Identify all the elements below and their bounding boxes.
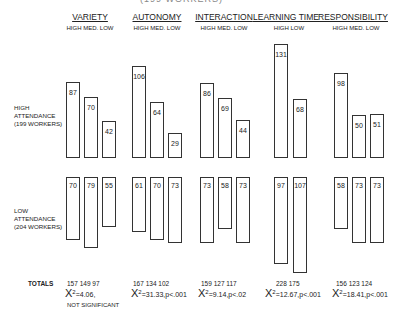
bar-low-responsibility-med: 73	[352, 177, 366, 243]
group-title-interaction: INTERACTION	[195, 12, 253, 22]
bar-value-label: 69	[219, 105, 231, 112]
bar-value-label: 98	[335, 80, 347, 87]
bar-value-label: 79	[85, 182, 97, 189]
bar-value-label: 64	[151, 109, 163, 116]
bar-value-label: 73	[371, 182, 383, 189]
row-label-line: ATTENDANCE	[14, 215, 62, 223]
bar-high-variety-med: 70	[84, 97, 98, 158]
totals-label: TOTALS	[28, 280, 53, 287]
chi-square-variety: X2=4.06,	[65, 287, 95, 299]
group-levels-learning-time: HIGH LOW	[274, 25, 304, 31]
totals-responsibility: 156 123 124	[336, 280, 372, 287]
totals-variety: 157 149 97	[67, 280, 100, 287]
bar-value-label: 51	[371, 121, 383, 128]
bar-high-interaction-med: 69	[218, 98, 232, 158]
group-title-learning-time: LEARNING TIME	[253, 12, 319, 22]
chi-value: =31.33,p<.001	[142, 291, 187, 298]
bar-value-label: 55	[103, 182, 115, 189]
bar-value-label: 73	[353, 182, 365, 189]
bar-value-label: 29	[169, 140, 181, 147]
chi-square-autonomy: X2=31.33,p<.001	[131, 287, 187, 299]
bar-value-label: 61	[133, 182, 145, 189]
bar-low-learning-time-low: 107	[293, 177, 307, 273]
row-label-high-attendance: HIGH ATTENDANCE (199 WORKERS)	[14, 104, 62, 128]
bar-low-autonomy-low: 73	[168, 177, 182, 243]
bar-high-variety-high: 87	[66, 82, 80, 158]
row-label-line: (204 WORKERS)	[14, 223, 62, 231]
bar-low-learning-time-high: 97	[274, 177, 288, 264]
bar-value-label: 73	[237, 182, 249, 189]
chi-value: =9.14,p<.02	[209, 291, 246, 298]
bar-low-responsibility-low: 73	[370, 177, 384, 243]
significance-note-variety: NOT SIGNIFICANT	[67, 302, 119, 308]
bar-low-interaction-low: 73	[236, 177, 250, 243]
bar-high-learning-time-low: 68	[293, 99, 307, 158]
group-title-autonomy: AUTONOMY	[133, 12, 182, 22]
bar-high-interaction-low: 44	[236, 120, 250, 158]
bar-value-label: 107	[294, 182, 306, 189]
chi-square-interaction: X2=9.14,p<.02	[198, 287, 246, 299]
group-title-variety: VARIETY	[72, 12, 108, 22]
chi-value: =4.06,	[76, 291, 96, 298]
bar-value-label: 97	[275, 182, 287, 189]
bar-value-label: 70	[67, 182, 79, 189]
bar-high-autonomy-high: 106	[132, 66, 146, 158]
bar-low-variety-low: 55	[102, 177, 116, 227]
bar-low-interaction-med: 58	[218, 177, 232, 229]
row-label-line: ATTENDANCE	[14, 112, 62, 120]
bar-value-label: 87	[67, 89, 79, 96]
group-levels-responsibility: HIGH MED. LOW	[332, 25, 379, 31]
bar-high-interaction-high: 86	[200, 83, 214, 158]
group-title-responsibility: RESPONSIBILITY	[318, 12, 388, 22]
bar-value-label: 42	[103, 128, 115, 135]
chi-value: =18.41,p<.001	[343, 291, 388, 298]
bar-low-interaction-high: 73	[200, 177, 214, 243]
chi-square-responsibility: X2=18.41,p<.001	[332, 287, 388, 299]
totals-interaction: 159 127 117	[201, 280, 237, 287]
bar-high-variety-low: 42	[102, 121, 116, 158]
bar-value-label: 106	[133, 73, 145, 80]
bar-low-responsibility-high: 58	[334, 177, 348, 229]
bar-high-learning-time-high: 131	[274, 44, 288, 158]
bar-value-label: 44	[237, 127, 249, 134]
bar-value-label: 58	[335, 182, 347, 189]
bar-value-label: 73	[169, 182, 181, 189]
group-levels-interaction: HIGH MED. LOW	[200, 25, 247, 31]
bar-high-autonomy-low: 29	[168, 133, 182, 158]
bar-value-label: 131	[275, 51, 287, 58]
bar-value-label: 58	[219, 182, 231, 189]
bar-low-variety-high: 70	[66, 177, 80, 240]
chi-square-learning-time: X2=12.67,p<.001	[265, 287, 321, 299]
group-levels-autonomy: HIGH MED. LOW	[133, 25, 180, 31]
totals-learning-time: 228 175	[276, 280, 300, 287]
bar-value-label: 86	[201, 90, 213, 97]
row-label-line: HIGH	[14, 104, 62, 112]
bar-low-autonomy-high: 61	[132, 177, 146, 232]
row-label-low-attendance: LOW ATTENDANCE (204 WORKERS)	[14, 207, 62, 231]
chart-title-fragment: (199 WORKERS)	[140, 0, 223, 4]
bar-value-label: 70	[85, 104, 97, 111]
bar-value-label: 73	[201, 182, 213, 189]
bar-low-variety-med: 79	[84, 177, 98, 248]
row-label-line: LOW	[14, 207, 62, 215]
bar-value-label: 50	[353, 122, 365, 129]
bar-high-responsibility-high: 98	[334, 73, 348, 158]
group-levels-variety: HIGH MED. LOW	[66, 25, 113, 31]
bar-high-autonomy-med: 64	[150, 102, 164, 158]
totals-autonomy: 167 134 102	[133, 280, 169, 287]
bar-value-label: 68	[294, 106, 306, 113]
chi-value: =12.67,p<.001	[276, 291, 321, 298]
bar-high-responsibility-low: 51	[370, 114, 384, 158]
bar-high-responsibility-med: 50	[352, 115, 366, 159]
row-label-line: (199 WORKERS)	[14, 120, 62, 128]
bar-low-autonomy-med: 70	[150, 177, 164, 240]
bar-value-label: 70	[151, 182, 163, 189]
